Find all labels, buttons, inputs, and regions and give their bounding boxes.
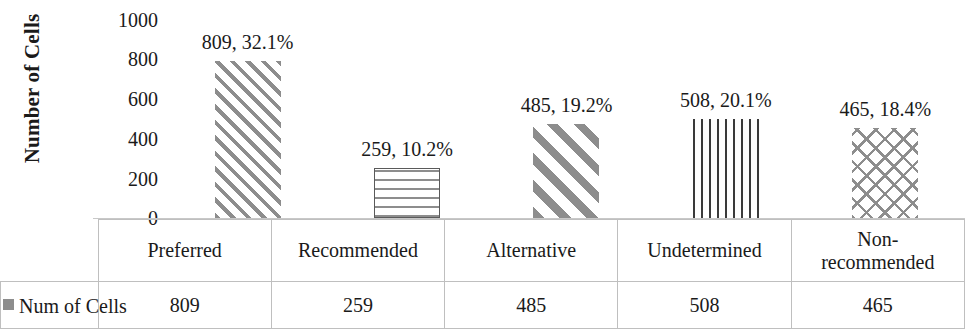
value-cell-non-recommended: 465 [791,282,964,329]
bar-column-undetermined: 508, 20.1% [646,0,805,218]
data-table: Preferred Recommended Alternative Undete… [0,219,965,329]
category-line-1: Non- [857,228,898,250]
bar-column-alternative: 485, 19.2% [487,0,646,218]
category-cell-undetermined: Undetermined [618,220,791,282]
legend-label: Num of Cells [19,294,127,316]
y-tick-600: 600 [96,89,158,109]
data-table-header-row: Preferred Recommended Alternative Undete… [1,220,965,282]
bar-column-preferred: 809, 32.1% [168,0,327,218]
category-cell-recommended: Recommended [271,220,444,282]
bar-undetermined[interactable] [693,119,759,218]
value-cell-undetermined: 508 [618,282,791,329]
bar-chart-figure: Number of Cells 1000 800 600 400 200 0 8… [0,0,965,335]
bar-alternative[interactable] [533,124,599,218]
y-axis-tick-labels: 1000 800 600 400 200 0 [96,0,158,232]
bar-label-preferred: 809, 32.1% [202,32,294,52]
bar-preferred[interactable] [215,61,281,218]
bar-recommended[interactable] [374,168,440,218]
data-table-wrapper: Preferred Recommended Alternative Undete… [0,219,965,335]
bar-label-recommended: 259, 10.2% [361,139,453,159]
legend-square-icon [3,299,14,310]
plot-area: 809, 32.1% 259, 10.2% 485, 19.2% 508, 20… [168,0,965,219]
bar-label-non-recommended: 465, 18.4% [839,99,931,119]
category-line-2: recommended [821,251,934,273]
category-cell-preferred: Preferred [98,220,271,282]
bar-column-recommended: 259, 10.2% [327,0,486,218]
y-tick-800: 800 [96,49,158,69]
legend-entry-num-of-cells: Num of Cells [1,282,99,329]
value-cell-recommended: 259 [271,282,444,329]
value-cell-alternative: 485 [445,282,618,329]
data-table-value-row: Num of Cells 809 259 485 508 465 [1,282,965,329]
category-cell-alternative: Alternative [445,220,618,282]
bar-label-alternative: 485, 19.2% [521,95,613,115]
y-axis-title: Number of Cells [20,0,45,184]
bar-non-recommended[interactable] [852,128,918,218]
y-tick-400: 400 [96,129,158,149]
bar-label-undetermined: 508, 20.1% [680,90,772,110]
category-cell-non-recommended: Non- recommended [791,220,964,282]
y-tick-200: 200 [96,169,158,189]
bar-column-non-recommended: 465, 18.4% [806,0,965,218]
table-corner-spacer [1,220,99,282]
y-tick-1000: 1000 [96,10,158,30]
